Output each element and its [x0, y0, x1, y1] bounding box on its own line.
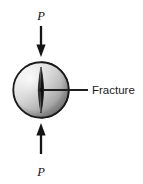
load-label-bottom: P — [36, 165, 45, 179]
fracture-diagram-figure: P P Fracture — [0, 0, 143, 184]
fracture-label: Fracture — [92, 84, 135, 96]
load-label-top: P — [36, 9, 45, 23]
diagram-canvas: P P Fracture — [0, 0, 143, 184]
arrow-up-icon — [36, 123, 45, 154]
arrow-down-icon — [36, 26, 45, 57]
